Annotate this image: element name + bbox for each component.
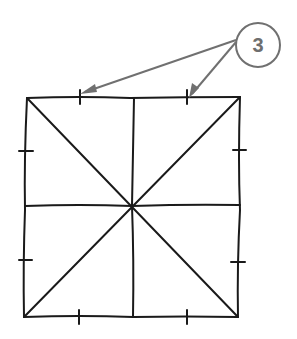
bottom-edge	[24, 316, 238, 317]
square-figure	[19, 90, 246, 324]
arrowheads	[80, 83, 199, 98]
diagonal-2	[24, 97, 240, 317]
left-edge	[24, 98, 27, 317]
right-edge	[238, 97, 240, 317]
arrow-2	[192, 42, 236, 94]
arrowhead-2	[189, 83, 199, 98]
callout-label: 3	[236, 30, 280, 60]
arrow-1	[85, 40, 236, 92]
arrowhead-1	[80, 84, 97, 94]
